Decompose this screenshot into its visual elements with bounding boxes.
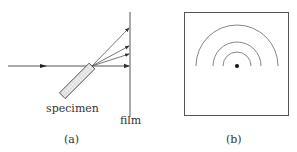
incident-arrow-icon [40, 64, 47, 68]
film-label: film [120, 114, 142, 127]
arc-outer [196, 25, 278, 66]
caption-a: (a) [64, 133, 79, 146]
film-frame [185, 13, 289, 116]
specimen [59, 63, 94, 98]
panel-a: specimen film (a) [8, 12, 142, 146]
arc-inner [223, 52, 251, 66]
diffraction-diagram: specimen film (a) (b) [0, 0, 297, 152]
caption-b: (b) [226, 133, 242, 146]
center-spot [235, 64, 239, 68]
arc-middle [213, 42, 261, 66]
specimen-label: specimen [46, 102, 99, 115]
panel-b: (b) [185, 13, 289, 147]
